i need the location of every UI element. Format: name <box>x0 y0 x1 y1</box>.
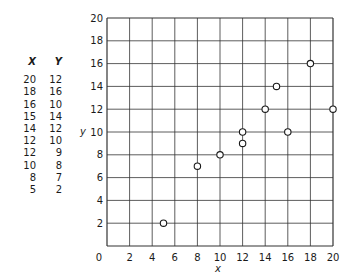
scatter-plot: 2468101214161820 02468101214161820 y x <box>0 0 351 279</box>
x-axis-label: x <box>214 263 221 274</box>
grid <box>107 18 333 246</box>
y-axis-label: y <box>79 126 87 137</box>
x-tick-label: 2 <box>126 252 132 263</box>
y-tick-label: 16 <box>90 58 103 69</box>
x-tick-label: 16 <box>281 252 294 263</box>
y-tick-label: 20 <box>90 13 103 24</box>
data-point-marker <box>160 220 166 226</box>
y-axis-ticks: 2468101214161820 <box>90 13 103 229</box>
x-tick-label: 0 <box>96 252 102 263</box>
x-tick-label: 4 <box>149 252 155 263</box>
x-tick-label: 8 <box>194 252 200 263</box>
data-point-marker <box>330 106 336 112</box>
y-tick-label: 8 <box>97 149 103 160</box>
data-point-marker <box>217 152 223 158</box>
y-tick-label: 6 <box>97 172 103 183</box>
y-tick-label: 10 <box>90 127 103 138</box>
x-tick-label: 12 <box>236 252 249 263</box>
data-point-marker <box>239 129 245 135</box>
x-tick-label: 20 <box>327 252 340 263</box>
x-tick-label: 6 <box>172 252 178 263</box>
x-axis-ticks: 02468101214161820 <box>96 252 340 263</box>
data-point-marker <box>262 106 268 112</box>
x-tick-label: 14 <box>259 252 272 263</box>
y-tick-label: 4 <box>97 195 103 206</box>
x-tick-label: 18 <box>304 252 317 263</box>
data-point-marker <box>273 83 279 89</box>
y-tick-label: 14 <box>90 81 103 92</box>
data-point-marker <box>307 60 313 66</box>
data-point-marker <box>239 140 245 146</box>
y-tick-label: 12 <box>90 104 103 115</box>
data-point-marker <box>194 163 200 169</box>
y-tick-label: 2 <box>97 218 103 229</box>
y-tick-label: 18 <box>90 35 103 46</box>
data-points <box>160 60 336 226</box>
data-point-marker <box>285 129 291 135</box>
x-tick-label: 10 <box>214 252 227 263</box>
